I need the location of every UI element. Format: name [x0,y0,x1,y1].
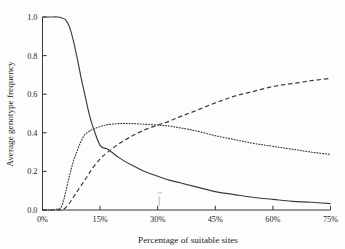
x-tick-label: 30% [150,215,165,224]
figure-canvas: 0.00.20.40.60.81.0 0%15%30%45%60%75% Per… [0,0,345,249]
y-axis-ticks [43,17,47,210]
y-tick-label: 1.0 [27,13,37,22]
curves-group [43,17,331,210]
series-dotted-curve [43,123,331,210]
y-axis-title: Average genotype frequency [5,61,15,167]
x-axis-title: Percentage of suitable sites [138,235,238,245]
y-tick-label: 0.0 [27,206,37,215]
x-tick-label: 75% [323,215,338,224]
x-tick-label: 60% [265,215,280,224]
y-tick-label: 0.4 [27,129,38,138]
x-tick-label: 15% [92,215,107,224]
y-tick-label: 0.2 [27,167,37,176]
y-tick-label: 0.6 [27,90,37,99]
y-tick-label: 0.8 [27,52,37,61]
scan-artifact [157,192,163,205]
line-chart: 0.00.20.40.60.81.0 0%15%30%45%60%75% Per… [0,0,345,249]
x-axis-tick-labels: 0%15%30%45%60%75% [37,215,338,224]
x-tick-label: 45% [208,215,223,224]
y-axis-tick-labels: 0.00.20.40.60.81.0 [27,13,38,215]
series-solid-curve [43,17,331,204]
x-tick-label: 0% [37,215,48,224]
x-axis-ticks [43,206,331,210]
